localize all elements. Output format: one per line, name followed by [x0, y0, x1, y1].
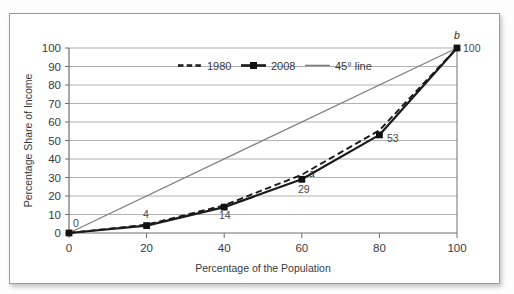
x-tick-label-80: 80 [373, 242, 386, 254]
y-tick-label-50: 50 [48, 135, 61, 147]
y-tick-label-60: 60 [48, 116, 61, 128]
y-tick-label-70: 70 [48, 98, 61, 110]
x-tick-label-60: 60 [295, 242, 308, 254]
legend-label-1980: 1980 [207, 60, 231, 72]
data-point-marker-60 [298, 176, 305, 183]
x-tick-label-40: 40 [218, 242, 231, 254]
x-axis-title: Percentage of the Population [195, 262, 331, 274]
y-tick-label-20: 20 [48, 190, 61, 202]
chart-legend: 1980 2008 45° line [178, 60, 372, 72]
y-tick-label-30: 30 [48, 172, 61, 184]
data-point-marker-20 [143, 222, 150, 229]
y-tick-label-0: 0 [55, 227, 61, 239]
figure-border-frame: 100 90 80 70 60 50 40 30 20 10 0 0 20 40… [9, 13, 500, 284]
annotation-label-a: a [309, 167, 315, 179]
x-tick-label-20: 20 [140, 242, 153, 254]
x-tick-label-100: 100 [447, 242, 466, 254]
y-tick-label-40: 40 [48, 153, 61, 165]
y-tick-label-10: 10 [48, 209, 61, 221]
figure-root: 100 90 80 70 60 50 40 30 20 10 0 0 20 40… [0, 0, 514, 294]
y-axis-title: Percentage Share of Income [22, 74, 34, 208]
y-tick-label-80: 80 [48, 79, 61, 91]
x-tick-marks [69, 233, 457, 238]
x-tick-labels: 0 20 40 60 80 100 [66, 242, 467, 254]
y-tick-labels: 100 90 80 70 60 50 40 30 20 10 0 [42, 42, 61, 239]
y-tick-label-100: 100 [42, 42, 61, 54]
legend-label-2008: 2008 [271, 60, 295, 72]
data-point-marker-80 [376, 132, 383, 139]
gridlines [69, 48, 457, 215]
x-tick-label-0: 0 [66, 242, 72, 254]
y-tick-label-90: 90 [48, 61, 61, 73]
annotation-label-b: b [454, 29, 460, 41]
data-label-0: 0 [73, 217, 79, 229]
data-label-53: 53 [387, 132, 399, 144]
data-label-4: 4 [143, 208, 149, 220]
legend-label-45-line: 45° line [335, 60, 372, 72]
data-point-marker-0 [66, 230, 73, 237]
data-point-marker-100 [454, 45, 461, 52]
lorenz-curve-chart: 100 90 80 70 60 50 40 30 20 10 0 0 20 40… [10, 14, 499, 283]
data-label-14: 14 [219, 209, 231, 221]
data-label-100: 100 [463, 42, 481, 54]
legend-swatch-square-marker-icon [250, 62, 257, 69]
data-label-29: 29 [298, 183, 310, 195]
